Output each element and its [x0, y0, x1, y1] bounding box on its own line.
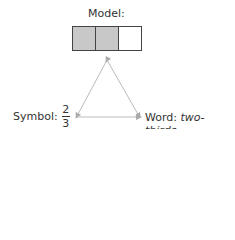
- word-label: Word:: [145, 111, 177, 124]
- word-representation: Word: two-thirds: [145, 111, 235, 129]
- symbol-representation: Symbol: 2 3: [13, 104, 70, 129]
- symbol-label: Symbol:: [13, 110, 58, 123]
- fraction-numerator: 2: [62, 104, 69, 115]
- fraction-denominator: 3: [62, 118, 69, 129]
- fraction: 2 3: [62, 104, 70, 129]
